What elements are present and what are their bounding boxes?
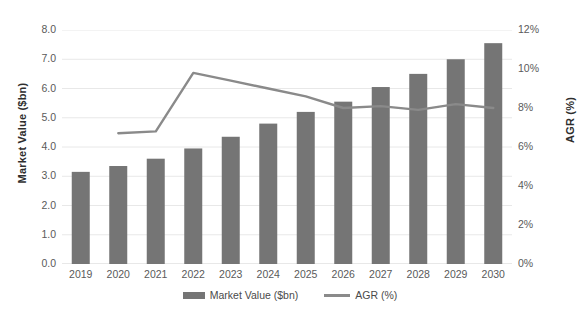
- bar-2030: [484, 43, 502, 264]
- bar-swatch-icon: [183, 292, 205, 299]
- y-right-tick-12pct: 12%: [518, 23, 564, 35]
- chart-container: Market Value ($bn) AGR (%) 0.01.02.03.04…: [0, 0, 580, 321]
- bar-2021: [147, 159, 165, 264]
- bar-2022: [184, 148, 202, 264]
- y-right-tick-6pct: 6%: [518, 140, 564, 152]
- bar-2027: [372, 87, 390, 264]
- plot-area: [62, 30, 512, 264]
- y-right-tick-4pct: 4%: [518, 179, 564, 191]
- y-right-tick-10pct: 10%: [518, 62, 564, 74]
- bar-2025: [297, 112, 315, 264]
- y-left-tick-7.0: 7.0: [4, 52, 56, 64]
- bar-2023: [222, 137, 240, 264]
- legend-label: Market Value ($bn): [210, 289, 299, 301]
- bar-2028: [409, 74, 427, 264]
- y-left-tick-8.0: 8.0: [4, 23, 56, 35]
- y-left-tick-4.0: 4.0: [4, 140, 56, 152]
- y-right-tick-8pct: 8%: [518, 101, 564, 113]
- y-left-tick-2.0: 2.0: [4, 199, 56, 211]
- y-left-tick-5.0: 5.0: [4, 111, 56, 123]
- y-right-tick-2pct: 2%: [518, 218, 564, 230]
- legend-item-market-value[interactable]: Market Value ($bn): [183, 289, 299, 301]
- y-left-tick-3.0: 3.0: [4, 169, 56, 181]
- bar-2024: [259, 124, 277, 264]
- y-axis-left-title: Market Value ($bn): [16, 3, 32, 263]
- data-series: [62, 30, 512, 264]
- y-axis-right-title: AGR (%): [564, 0, 580, 250]
- bar-2026: [334, 102, 352, 264]
- line-swatch-icon: [324, 294, 350, 297]
- x-tick-2030: 2030: [470, 268, 516, 280]
- y-left-tick-1.0: 1.0: [4, 228, 56, 240]
- bar-2019: [72, 172, 90, 264]
- chart-legend: Market Value ($bn)AGR (%): [0, 289, 580, 301]
- y-left-tick-6.0: 6.0: [4, 82, 56, 94]
- y-left-tick-0.0: 0.0: [4, 257, 56, 269]
- y-right-tick-0pct: 0%: [518, 257, 564, 269]
- bar-2029: [447, 59, 465, 264]
- legend-label: AGR (%): [355, 289, 397, 301]
- legend-item-agr[interactable]: AGR (%): [324, 289, 397, 301]
- bar-2020: [109, 166, 127, 264]
